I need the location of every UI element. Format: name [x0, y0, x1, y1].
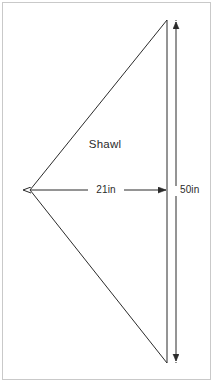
diagram-canvas: Shawl 21in 50in	[0, 0, 213, 382]
shawl-diagram-figure: Shawl 21in 50in	[0, 0, 213, 382]
shape-label: Shawl	[89, 138, 121, 150]
height-dimension-label: 50in	[180, 184, 199, 195]
width-dimension-label: 21in	[96, 184, 115, 195]
